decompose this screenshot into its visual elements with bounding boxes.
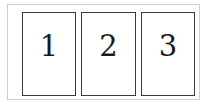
panel-1: 1: [22, 12, 76, 96]
panel-number: 3: [159, 32, 177, 95]
panel-number: 1: [40, 32, 58, 95]
panel-number: 2: [99, 32, 117, 95]
panel-2: 2: [81, 12, 136, 96]
panel-3: 3: [141, 12, 195, 96]
